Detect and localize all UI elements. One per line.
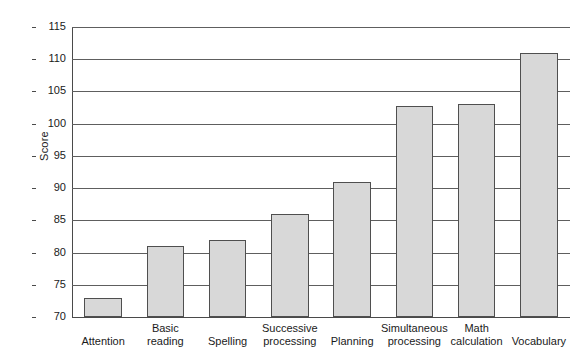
- gridline: [72, 156, 570, 157]
- y-axis-tick-mark: [32, 91, 36, 92]
- y-axis-tick-label: 110: [36, 53, 66, 64]
- y-axis-tick-mark: [32, 220, 36, 221]
- x-axis-category-labels: AttentionBasic readingSpellingSuccessive…: [72, 322, 570, 362]
- y-axis-line: [72, 27, 73, 318]
- gridline: [72, 124, 570, 125]
- y-axis-tick-label: 100: [36, 118, 66, 129]
- bar: [209, 240, 246, 317]
- bar: [333, 182, 370, 317]
- y-axis-tick-label: 70: [36, 311, 66, 322]
- y-axis-tick-label: 90: [36, 182, 66, 193]
- y-axis-tick-label: 75: [36, 279, 66, 290]
- y-axis-tick-mark: [32, 59, 36, 60]
- y-axis-tick-label: 80: [36, 247, 66, 258]
- bar-chart: Score 707580859095100105110115 Attention…: [0, 0, 582, 364]
- bar: [458, 104, 495, 317]
- y-axis-tick-label: 105: [36, 85, 66, 96]
- x-axis-line: [72, 317, 570, 318]
- y-axis-tick-mark: [32, 156, 36, 157]
- y-axis-tick-label: 95: [36, 150, 66, 161]
- plot-area: [72, 27, 570, 317]
- y-axis-tick-label: 85: [36, 214, 66, 225]
- bar: [520, 53, 557, 317]
- bar: [396, 106, 433, 317]
- y-axis-tick-mark: [32, 188, 36, 189]
- y-axis-tick-mark: [32, 317, 36, 318]
- bar: [271, 214, 308, 317]
- gridline: [72, 91, 570, 92]
- bar: [147, 246, 184, 317]
- gridline: [72, 220, 570, 221]
- y-axis-tick-mark: [32, 27, 36, 28]
- y-axis-tick-label: 115: [36, 21, 66, 32]
- gridline: [72, 27, 570, 28]
- x-axis-category-label: Vocabulary: [494, 335, 582, 348]
- y-axis-tick-mark: [32, 253, 36, 254]
- y-axis-tick-labels: 707580859095100105110115: [34, 27, 66, 318]
- bar: [84, 298, 121, 317]
- gridline: [72, 188, 570, 189]
- y-axis-tick-mark: [32, 285, 36, 286]
- y-axis-tick-mark: [32, 124, 36, 125]
- gridline: [72, 59, 570, 60]
